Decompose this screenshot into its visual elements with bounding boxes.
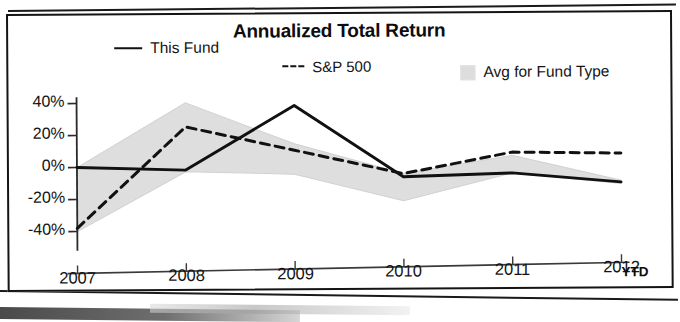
y-axis-tick-label: 40%	[8, 93, 64, 111]
x-axis-ytd-note: YTD	[622, 264, 649, 279]
x-axis-tick-label: 2008	[155, 266, 217, 285]
x-axis-tick-label: 2007	[47, 268, 109, 287]
x-axis-tick-label: 2009	[264, 264, 326, 283]
y-axis-tick-label: -40%	[9, 221, 65, 239]
y-axis-tick-label: 20%	[9, 125, 65, 143]
plot-area: 40%20%0%-20%-40% 20072008200920102011201…	[8, 12, 676, 294]
chart-plot-svg	[8, 12, 676, 294]
chart-card: Annualized Total Return This Fund S&P 50…	[6, 10, 674, 292]
y-axis-tick-label: 0%	[9, 157, 65, 175]
x-axis-tick-label: 2010	[373, 262, 435, 281]
y-axis-tick-label: -20%	[9, 189, 65, 207]
x-axis-tick-label: 2011	[482, 259, 544, 278]
avg-fund-type-band	[77, 100, 622, 231]
